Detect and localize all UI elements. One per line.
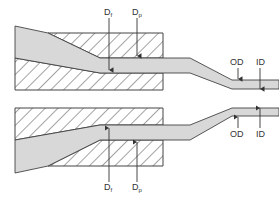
label-df-top: Df [104,8,112,18]
label-id-bottom: ID [256,130,265,139]
label-dp-top: Dp [132,8,142,18]
label-id-top: ID [256,58,265,67]
label-od-bottom: OD [230,130,244,139]
label-dp-bottom: Dp [132,183,142,193]
label-od-top: OD [230,58,244,67]
extrusion-die-diagram [0,0,279,199]
label-df-bottom: Df [104,183,112,193]
